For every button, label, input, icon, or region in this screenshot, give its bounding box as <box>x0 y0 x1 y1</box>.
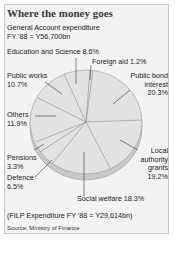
label-social-welfare: Social welfare 18.3% <box>77 195 144 204</box>
source-note: Source: Ministry of Finance <box>7 224 80 233</box>
label-local-authority: Local authority grants 19.2% <box>140 147 168 181</box>
label-others: Others 11.9% <box>7 111 29 128</box>
label-education: Education and Science 8.6% <box>7 48 99 57</box>
label-public-works: Public works 10.7% <box>7 72 47 89</box>
filp-note: (FILP Expenditure FY '88 = Y29,614bn) <box>7 212 132 221</box>
label-defence: Defence 6.5% <box>7 174 34 191</box>
label-foreign-aid: Foreign aid 1.2% <box>92 58 146 67</box>
label-pensions: Pensions 3.3% <box>7 154 37 171</box>
label-public-bond: Public bond interest 20.3% <box>130 72 168 98</box>
